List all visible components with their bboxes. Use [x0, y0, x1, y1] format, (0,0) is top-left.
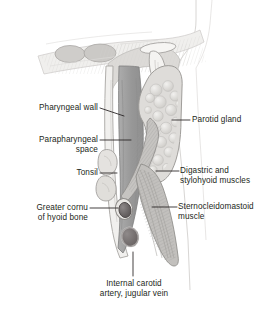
label-tonsil: Tonsil: [52, 168, 98, 178]
label-line: of hyoid bone: [38, 213, 88, 222]
label-line: Parapharyngeal: [39, 135, 98, 144]
label-line: Greater cornu: [36, 203, 88, 212]
label-line: artery, jugular vein: [100, 289, 168, 298]
label-greater-cornu-of-hyoid-bone: Greater cornuof hyoid bone: [10, 203, 88, 224]
label-line: Tonsil: [77, 168, 98, 177]
anatomy-illustration: [0, 0, 272, 319]
label-digastric-and-stylohyoid-muscles: Digastric andstylohyoid muscles: [180, 166, 270, 187]
label-line: Digastric and: [180, 166, 229, 175]
label-parapharyngeal-space: Parapharyngealspace: [10, 135, 98, 156]
label-sternocleidomastoid-muscle: Sternocleidomastoidmuscle: [178, 202, 272, 223]
label-line: space: [76, 145, 98, 154]
anatomy-figure: Pharyngeal wallParapharyngealspaceTonsil…: [0, 0, 272, 319]
label-pharyngeal-wall: Pharyngeal wall: [18, 103, 98, 113]
label-line: Sternocleidomastoid: [178, 202, 254, 211]
label-line: muscle: [178, 212, 204, 221]
label-line: Parotid gland: [192, 115, 241, 124]
oval-structure-left: [55, 46, 85, 63]
label-line: stylohyoid muscles: [180, 176, 250, 185]
label-line: Pharyngeal wall: [39, 103, 98, 112]
label-line: Internal carotid: [106, 279, 161, 288]
label-internal-carotid-artery-jugular-vein: Internal carotidartery, jugular vein: [72, 279, 196, 300]
label-parotid-gland: Parotid gland: [192, 115, 268, 125]
